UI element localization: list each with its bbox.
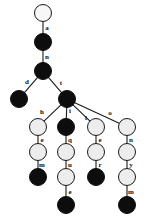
edge-label-a: a xyxy=(42,25,52,32)
edge-label-y: y xyxy=(126,162,136,169)
tree-node-n13 xyxy=(29,168,47,186)
edge-label-e: e xyxy=(37,137,47,144)
edge-label-h: h xyxy=(37,109,47,116)
edge-label-e: e xyxy=(95,137,105,144)
edge-label-e: e xyxy=(65,189,75,196)
tree-node-n12 xyxy=(118,143,136,161)
tree-node-n2 xyxy=(34,62,52,80)
tree-node-n14 xyxy=(57,168,75,186)
tree-node-n10 xyxy=(57,143,75,161)
edge-label-q: q xyxy=(65,137,75,144)
tree-node-n11 xyxy=(87,143,105,161)
tree-node-n8 xyxy=(118,118,136,136)
tree-node-n18 xyxy=(118,196,136,214)
edge-label-n: n xyxy=(42,54,52,61)
tree-node-n15 xyxy=(87,168,105,186)
edge-label-i: i xyxy=(65,108,75,115)
edge-label-l: l xyxy=(81,115,91,122)
edge-label-o: o xyxy=(105,110,115,117)
edge-label-d: d xyxy=(22,79,32,86)
edge-label-u: u xyxy=(65,162,75,169)
edge-label-t: t xyxy=(56,80,66,87)
trie-diagram: andthiloeqenmuryem xyxy=(0,0,150,224)
edge-label-m: m xyxy=(126,189,136,196)
tree-node-n5 xyxy=(29,118,47,136)
tree-node-n17 xyxy=(57,196,75,214)
tree-node-n9 xyxy=(29,143,47,161)
tree-node-n4 xyxy=(58,90,76,108)
tree-node-n0 xyxy=(34,4,52,22)
edge-label-n: n xyxy=(126,137,136,144)
tree-node-n16 xyxy=(118,168,136,186)
tree-node-n1 xyxy=(34,33,52,51)
edge-label-r: r xyxy=(95,162,105,169)
edge-label-m: m xyxy=(37,162,47,169)
tree-node-n6 xyxy=(57,118,75,136)
tree-node-n3 xyxy=(10,90,28,108)
